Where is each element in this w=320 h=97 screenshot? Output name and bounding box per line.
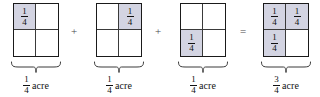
grid-cell-bottom-left [14,30,36,56]
caption-fraction: 1 4 [23,75,30,95]
grid-cell-top-left: 1 4 [14,4,36,30]
cell-fraction: 1 4 [271,7,278,27]
plus-operator-1: + [68,26,80,37]
grid-cell-top-right: 1 4 [119,4,141,30]
fraction-denominator: 4 [294,17,301,27]
caption-unit: acre [115,80,132,91]
fraction-numerator: 1 [127,7,134,17]
grid-cell-bottom-right [203,30,225,56]
sum-group: 1 4 1 4 1 4 [253,3,319,95]
caption-denominator: 4 [106,86,113,96]
cell-fraction: 1 4 [127,7,134,27]
area-model-square-sum: 1 4 1 4 1 4 [263,3,309,57]
fraction-denominator: 4 [21,17,28,27]
grid-cell-top-right [36,4,58,30]
fraction-addition-diagram: 1 4 1 4 acre + [0,0,320,97]
grid-cell-top-right [203,4,225,30]
brace-1 [10,61,62,74]
caption-fraction: 1 4 [190,75,197,95]
cell-fraction: 1 4 [188,33,195,53]
caption-denominator: 4 [190,86,197,96]
fraction-numerator: 1 [21,7,28,17]
brace-sum [260,61,312,74]
area-model-square-3: 1 4 [180,3,226,57]
plus-operator-2: + [152,26,164,37]
grid-cell-bottom-left: 1 4 [264,30,286,56]
equals-operator: = [237,26,249,37]
caption-fraction: 1 4 [106,75,113,95]
grid-cell-top-left [181,4,203,30]
caption-1: 1 4 acre [3,75,69,95]
caption-unit: acre [282,80,299,91]
caption-numerator: 1 [190,75,197,85]
cell-fraction: 1 4 [21,7,28,27]
caption-unit: acre [199,80,216,91]
brace-2 [93,61,145,74]
area-model-square-1: 1 4 [13,3,59,57]
fraction-numerator: 1 [271,33,278,43]
fraction-denominator: 4 [271,44,278,54]
fraction-numerator: 1 [188,33,195,43]
grid-cell-top-right: 1 4 [286,4,308,30]
cell-fraction: 1 4 [271,33,278,53]
grid-cell-bottom-right [36,30,58,56]
fraction-numerator: 1 [271,7,278,17]
addend-group-1: 1 4 1 4 acre [3,3,69,95]
caption-denominator: 4 [273,86,280,96]
fraction-numerator: 1 [294,7,301,17]
grid-cell-top-left [97,4,119,30]
caption-denominator: 4 [23,86,30,96]
area-model-square-2: 1 4 [96,3,142,57]
caption-sum: 3 4 acre [253,75,319,95]
grid-cell-bottom-left: 1 4 [181,30,203,56]
cell-fraction: 1 4 [294,7,301,27]
addend-group-2: 1 4 1 4 acre [86,3,152,95]
grid-cell-bottom-right [286,30,308,56]
brace-3 [177,61,229,74]
caption-numerator: 3 [273,75,280,85]
addend-group-3: 1 4 1 4 acre [170,3,236,95]
fraction-denominator: 4 [271,17,278,27]
caption-numerator: 1 [23,75,30,85]
fraction-denominator: 4 [127,17,134,27]
fraction-denominator: 4 [188,44,195,54]
caption-numerator: 1 [106,75,113,85]
caption-fraction: 3 4 [273,75,280,95]
grid-cell-bottom-left [97,30,119,56]
grid-cell-bottom-right [119,30,141,56]
caption-unit: acre [32,80,49,91]
caption-3: 1 4 acre [170,75,236,95]
grid-cell-top-left: 1 4 [264,4,286,30]
caption-2: 1 4 acre [86,75,152,95]
